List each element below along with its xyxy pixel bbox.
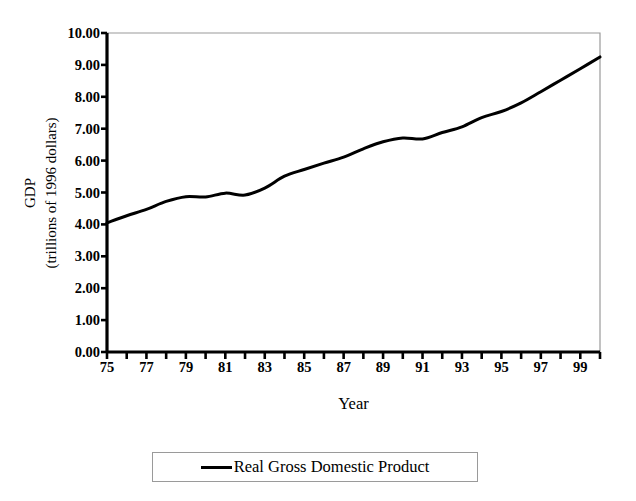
x-axis-tick-label: 97 [521, 360, 561, 375]
legend-line-swatch [201, 466, 232, 469]
legend-item-label: Real Gross Domestic Product [234, 459, 430, 476]
x-axis-tick-label: 75 [87, 360, 127, 375]
chart-legend: Real Gross Domestic Product [152, 452, 478, 482]
chart-figure: GDP (trillions of 1996 dollars) 0.001.00… [0, 0, 636, 501]
x-axis-tick-label: 95 [481, 360, 521, 375]
x-axis-tick-label: 81 [205, 360, 245, 375]
x-axis-tick-label: 91 [403, 360, 443, 375]
x-axis-tick-label: 85 [284, 360, 324, 375]
x-axis-tick-labels: 75777981838587899193959799 [0, 360, 636, 382]
x-axis-tick-label: 79 [166, 360, 206, 375]
data-line-real-gdp [107, 57, 600, 223]
x-axis-tick-label: 77 [126, 360, 166, 375]
plot-area [0, 0, 636, 501]
x-axis-tick-label: 93 [442, 360, 482, 375]
x-axis-tick-label: 87 [324, 360, 364, 375]
x-axis-tick-label: 83 [245, 360, 285, 375]
legend-item: Real Gross Domestic Product [201, 459, 430, 476]
x-axis-title: Year [107, 396, 600, 413]
x-axis-tick-label: 89 [363, 360, 403, 375]
plot-frame [107, 33, 600, 352]
x-axis-tick-label: 99 [560, 360, 600, 375]
